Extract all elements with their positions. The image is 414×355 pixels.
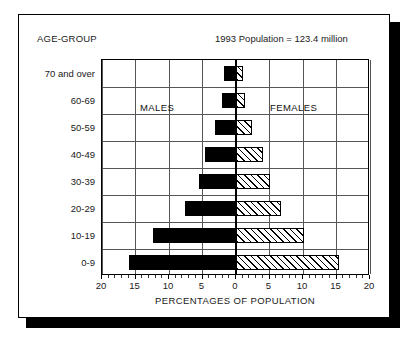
bar-females-60-69 bbox=[236, 93, 245, 108]
bar-males-20-29 bbox=[185, 201, 236, 216]
x-tick-minor bbox=[161, 275, 162, 278]
x-tick-label: 5 bbox=[266, 280, 271, 291]
x-tick-minor bbox=[175, 275, 176, 278]
x-tick-minor bbox=[188, 275, 189, 278]
x-tick-minor bbox=[215, 275, 216, 278]
x-tick-minor bbox=[248, 275, 249, 278]
y-tick-50-59: 50-59 bbox=[71, 121, 95, 132]
x-tick-minor bbox=[141, 275, 142, 278]
age-group-axis-title: AGE-GROUP bbox=[37, 33, 97, 44]
x-tick-minor bbox=[289, 275, 290, 278]
series-label-females: FEMALES bbox=[270, 102, 317, 113]
x-axis-title: PERCENTAGES OF POPULATION bbox=[101, 295, 369, 306]
x-tick-major bbox=[135, 275, 136, 279]
x-tick-minor bbox=[155, 275, 156, 278]
bar-males-0-9 bbox=[129, 255, 236, 270]
gridline-vertical bbox=[336, 60, 337, 274]
x-tick-minor bbox=[222, 275, 223, 278]
x-tick-major bbox=[168, 275, 169, 279]
x-tick-minor bbox=[295, 275, 296, 278]
x-tick-minor bbox=[181, 275, 182, 278]
x-tick-minor bbox=[282, 275, 283, 278]
bar-females-40-49 bbox=[236, 147, 263, 162]
y-axis-tick-labels: 70 and over60-6950-5940-4930-3920-2910-1… bbox=[19, 59, 95, 275]
x-tick-minor bbox=[349, 275, 350, 278]
bar-females-70-and-over bbox=[236, 66, 243, 81]
x-tick-label: 20 bbox=[96, 280, 107, 291]
bar-males-10-19 bbox=[153, 228, 236, 243]
x-tick-major bbox=[336, 275, 337, 279]
x-tick-minor bbox=[128, 275, 129, 278]
bar-females-10-19 bbox=[236, 228, 304, 243]
bar-males-30-39 bbox=[199, 174, 236, 189]
bar-males-40-49 bbox=[205, 147, 236, 162]
x-tick-label: 15 bbox=[330, 280, 341, 291]
x-tick-minor bbox=[329, 275, 330, 278]
x-tick-label: 10 bbox=[163, 280, 174, 291]
y-tick-40-49: 40-49 bbox=[71, 148, 95, 159]
x-tick-major bbox=[369, 275, 370, 279]
x-tick-minor bbox=[255, 275, 256, 278]
x-tick-minor bbox=[242, 275, 243, 278]
series-label-males: MALES bbox=[140, 102, 174, 113]
x-tick-minor bbox=[309, 275, 310, 278]
x-tick-minor bbox=[195, 275, 196, 278]
y-tick-60-69: 60-69 bbox=[71, 94, 95, 105]
x-tick-label: 20 bbox=[364, 280, 375, 291]
x-tick-label: 15 bbox=[129, 280, 140, 291]
x-tick-minor bbox=[275, 275, 276, 278]
y-tick-30-39: 30-39 bbox=[71, 175, 95, 186]
bar-males-60-69 bbox=[222, 93, 236, 108]
x-tick-label: 0 bbox=[232, 280, 237, 291]
x-tick-major bbox=[302, 275, 303, 279]
chart-card: AGE-GROUP 1993 Population = 123.4 millio… bbox=[18, 14, 390, 318]
gridline-vertical bbox=[370, 60, 371, 274]
x-tick-major bbox=[235, 275, 236, 279]
bar-females-0-9 bbox=[236, 255, 339, 270]
gridline-vertical bbox=[102, 60, 103, 274]
bar-males-70-and-over bbox=[224, 66, 236, 81]
gridline-vertical bbox=[135, 60, 136, 274]
x-tick-minor bbox=[108, 275, 109, 278]
x-tick-minor bbox=[362, 275, 363, 278]
x-tick-minor bbox=[208, 275, 209, 278]
population-total-note: 1993 Population = 123.4 million bbox=[215, 33, 348, 44]
plot-area: MALES FEMALES bbox=[101, 59, 369, 275]
plot-inner bbox=[102, 60, 368, 274]
y-tick-10-19: 10-19 bbox=[71, 229, 95, 240]
bar-females-30-39 bbox=[236, 174, 270, 189]
population-pyramid-figure: AGE-GROUP 1993 Population = 123.4 millio… bbox=[0, 0, 414, 355]
x-tick-minor bbox=[356, 275, 357, 278]
x-tick-major bbox=[101, 275, 102, 279]
x-tick-label: 10 bbox=[297, 280, 308, 291]
bar-females-50-59 bbox=[236, 120, 252, 135]
x-tick-major bbox=[202, 275, 203, 279]
bar-males-50-59 bbox=[215, 120, 236, 135]
x-tick-minor bbox=[342, 275, 343, 278]
y-tick-20-29: 20-29 bbox=[71, 202, 95, 213]
x-tick-minor bbox=[228, 275, 229, 278]
x-tick-minor bbox=[148, 275, 149, 278]
x-tick-major bbox=[269, 275, 270, 279]
bar-females-20-29 bbox=[236, 201, 281, 216]
x-tick-minor bbox=[114, 275, 115, 278]
x-tick-minor bbox=[315, 275, 316, 278]
axis-zero-line bbox=[235, 60, 237, 274]
x-tick-minor bbox=[121, 275, 122, 278]
x-tick-minor bbox=[262, 275, 263, 278]
x-tick-label: 5 bbox=[199, 280, 204, 291]
y-tick-70-and-over: 70 and over bbox=[45, 67, 95, 78]
x-tick-minor bbox=[322, 275, 323, 278]
y-tick-0-9: 0-9 bbox=[81, 256, 95, 267]
